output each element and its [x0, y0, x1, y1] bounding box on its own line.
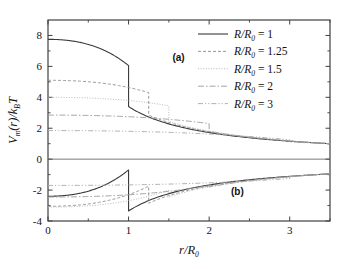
panel-label-b: (b) [231, 186, 244, 197]
curve-panel-b-R1 [48, 170, 330, 211]
panel-label-a: (a) [172, 52, 184, 63]
figure-container: 0123-4-202468r/R0Vm(r)/kBT(a)(b)R/R0 = 1… [0, 0, 338, 269]
x-tick-label: 2 [206, 224, 212, 236]
y-tick-label: 2 [37, 122, 43, 134]
x-axis-title: r/R0 [179, 243, 199, 259]
y-tick-label: 0 [37, 153, 43, 165]
legend-label-4: R/R0 = 3 [233, 98, 273, 113]
y-tick-label: 4 [37, 91, 43, 103]
y-tick-label: -4 [33, 215, 43, 227]
legend-label-2: R/R0 = 1.5 [233, 63, 282, 78]
x-tick-label: 0 [45, 224, 51, 236]
x-tick-label: 3 [287, 224, 293, 236]
curve-panel-a-R3 [48, 131, 330, 144]
panel-b-curves [48, 170, 330, 211]
curve-panel-b-R3 [48, 174, 330, 186]
legend-label-0: R/R0 = 1 [233, 28, 273, 43]
legend: R/R0 = 1R/R0 = 1.25R/R0 = 1.5R/R0 = 2R/R… [198, 28, 288, 113]
x-tick-label: 1 [126, 224, 132, 236]
chart-plot: 0123-4-202468r/R0Vm(r)/kBT(a)(b)R/R0 = 1… [0, 0, 338, 269]
y-axis-title: Vm(r)/kBT [6, 96, 22, 144]
y-tick-label: 6 [37, 60, 43, 72]
legend-label-3: R/R0 = 2 [233, 80, 273, 95]
legend-label-1: R/R0 = 1.25 [233, 45, 288, 60]
y-tick-label: -2 [33, 184, 42, 196]
panel-a-curves [48, 39, 330, 143]
curve-panel-a-R1_5 [48, 97, 330, 143]
y-tick-label: 8 [37, 29, 43, 41]
curve-panel-a-R1_25 [48, 80, 330, 143]
